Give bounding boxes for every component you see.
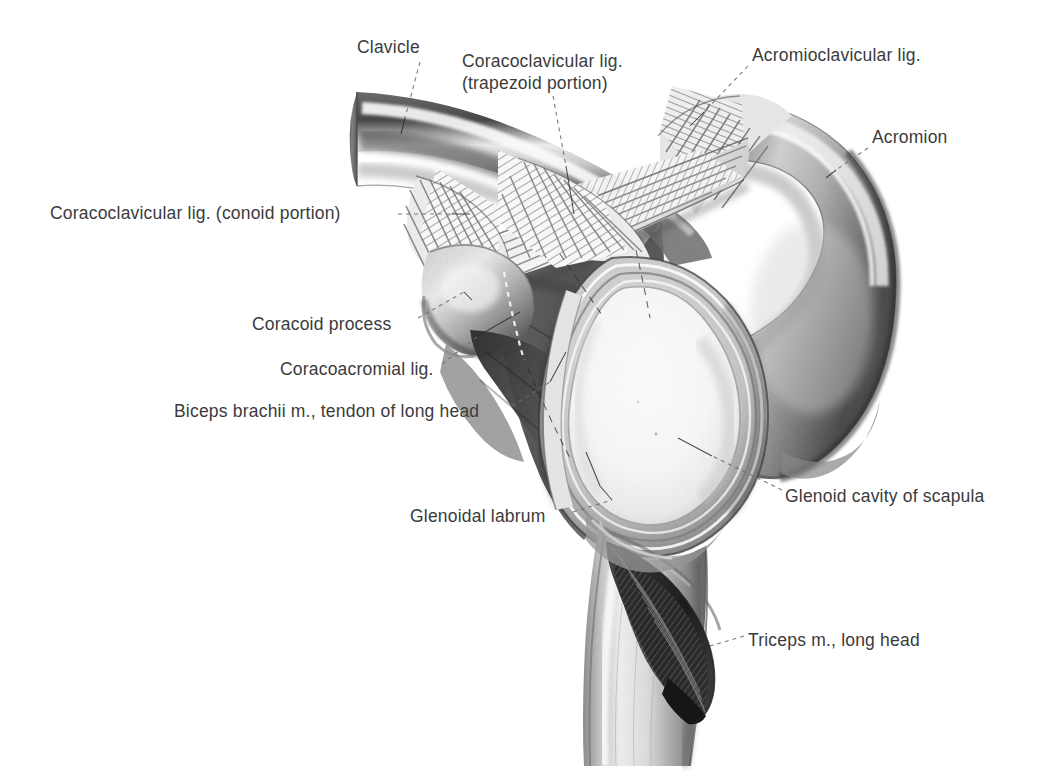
shoulder-joint-figure [0, 0, 1048, 771]
label-acromion: Acromion [872, 126, 948, 148]
label-glenoidal-labrum: Glenoidal labrum [410, 505, 546, 527]
label-coracoclavicular-trapezoid: Coracoclavicular lig. (trapezoid portion… [462, 50, 623, 94]
anatomical-plate: Clavicle Coracoclavicular lig. (trapezoi… [0, 0, 1048, 771]
label-coracoid-process: Coracoid process [252, 313, 391, 335]
label-coracoacromial: Coracoacromial lig. [280, 358, 434, 380]
label-coracoclavicular-conoid: Coracoclavicular lig. (conoid portion) [50, 202, 341, 224]
label-glenoid-cavity: Glenoid cavity of scapula [785, 485, 985, 507]
label-triceps-long-head: Triceps m., long head [748, 629, 920, 651]
label-clavicle: Clavicle [357, 36, 420, 58]
label-acromioclavicular: Acromioclavicular lig. [752, 44, 921, 66]
label-biceps-tendon-long-head: Biceps brachii m., tendon of long head [174, 400, 479, 422]
